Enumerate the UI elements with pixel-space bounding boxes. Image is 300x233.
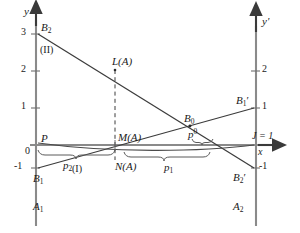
x-axis-label: x	[258, 147, 262, 157]
point-label-B1-prime: B1′	[236, 95, 249, 108]
origin-label: 0	[25, 146, 30, 156]
y-prime-tick-2: 2	[262, 64, 267, 74]
line-branch-one	[38, 108, 254, 168]
point-label-B2: B2	[41, 22, 51, 35]
point-l-of-a	[114, 69, 117, 72]
point-label-A1: A1	[33, 201, 43, 214]
brace-label-p0: p0	[188, 128, 197, 140]
y-prime-tick-1: 1	[262, 101, 267, 111]
y-prime-axis-label: y'	[262, 16, 269, 27]
j-equals-one-label: J = 1	[252, 131, 273, 141]
point-label-B1: B1	[33, 173, 43, 186]
y-axis	[31, 12, 40, 226]
y-tick-minus-1: -1	[14, 161, 22, 171]
brace-p2	[38, 150, 115, 159]
y-prime-axis	[251, 14, 260, 226]
y-prime-tick-minus-1: -1	[259, 161, 267, 171]
branch-two-label: (II)	[40, 45, 53, 55]
point-label-L-of-A: L(A)	[112, 56, 132, 67]
figure-canvas: y y' x 3 2 1 -1 0 2 1 -1 J = 1 B2 B1 A1 …	[0, 0, 300, 233]
brace-label-p2: p2	[63, 160, 72, 173]
y-tick-2: 2	[21, 64, 26, 74]
point-label-N-of-A: N(A)	[115, 161, 136, 172]
point-label-B0: B0	[184, 113, 194, 126]
point-label-B2-prime: B2′	[233, 172, 246, 185]
point-label-P: P	[41, 133, 48, 144]
y-tick-3: 3	[21, 27, 26, 37]
y-tick-1: 1	[21, 101, 26, 111]
branch-one-label: (I)	[72, 164, 82, 174]
brace-p1	[124, 152, 210, 161]
brace-label-p1: p1	[164, 162, 173, 175]
point-label-M-of-A: M(A)	[118, 132, 141, 143]
y-axis-label: y	[24, 6, 29, 17]
figure-graphics	[0, 0, 300, 233]
point-label-A2: A2	[233, 201, 243, 214]
